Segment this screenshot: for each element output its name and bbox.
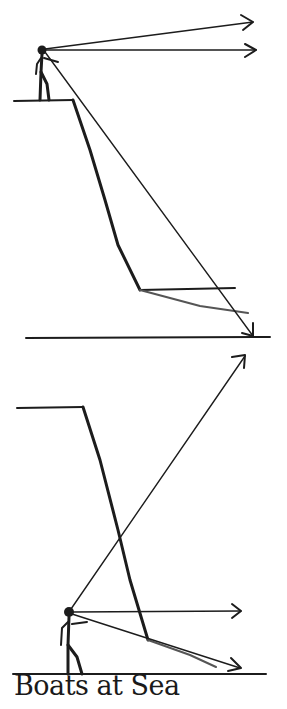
reflected-ray [140,290,248,313]
cliff-face [83,407,148,640]
bottom-panel [13,355,266,674]
figure-leg [41,72,49,100]
horizontal-arrow [45,44,256,57]
diagram-canvas: Boats at Sea [0,0,287,709]
horizontal-arrow [72,604,241,618]
boats-at-sea-diagram [0,0,287,709]
cliff-top [17,407,83,408]
upward-arrow [45,15,253,49]
figure-body [40,54,42,100]
sea-line-top [26,337,270,338]
figure-arm-front [72,622,87,624]
diagram-caption: Boats at Sea [14,672,180,699]
cliff-top [14,100,73,101]
cliff-face [73,100,140,290]
ledge-line [140,288,235,290]
reflected-ray [148,640,216,667]
upward-arrow [71,355,245,609]
top-panel [14,15,270,338]
